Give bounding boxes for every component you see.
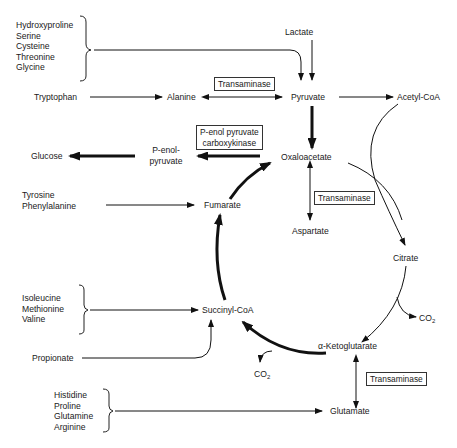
node-glucose: Glucose: [31, 151, 63, 162]
amino-acid-group-glutamate: Histidine Proline Glutamine Arginine: [54, 390, 93, 432]
penol-line2: pyruvate: [138, 156, 194, 167]
co2-text: CO: [419, 313, 432, 323]
label-tyrosine: Tyrosine: [22, 190, 76, 201]
co2-citrate: CO2: [419, 313, 435, 327]
node-succinyl-coa: Succinyl-CoA: [202, 305, 254, 316]
node-citrate: Citrate: [393, 253, 418, 264]
amino-acid-group-pyruvate: Hydroxyproline Serine Cysteine Threonine…: [16, 20, 73, 73]
brace-group1: [80, 16, 91, 81]
label-isoleucine: Isoleucine: [22, 293, 64, 304]
amino-acid-group-fumarate: Tyrosine Phenylalanine: [22, 190, 76, 211]
label-glycine: Glycine: [16, 62, 73, 73]
node-lactate: Lactate: [285, 27, 313, 38]
label-arginine: Arginine: [54, 422, 93, 433]
node-aspartate: Aspartate: [292, 226, 329, 237]
node-pyruvate: Pyruvate: [291, 92, 325, 103]
label-methionine: Methionine: [22, 304, 64, 315]
enzyme-transaminase-glutamate: Transaminase: [366, 372, 427, 386]
label-hydroxyproline: Hydroxyproline: [16, 20, 73, 31]
co2-text: CO: [254, 369, 267, 379]
pepck-line1: P-enol pyruvate: [200, 127, 259, 138]
node-tryptophan: Tryptophan: [34, 92, 77, 103]
label-serine: Serine: [16, 31, 73, 42]
label-histidine: Histidine: [54, 390, 93, 401]
node-propionate: Propionate: [32, 353, 74, 364]
label-valine: Valine: [22, 314, 64, 325]
pepck-line2: carboxykinase: [200, 138, 259, 149]
enzyme-transaminase-aspartate: Transaminase: [314, 191, 375, 205]
node-fumarate: Fumarate: [204, 200, 241, 211]
co2-ketoglutarate: CO2: [254, 369, 270, 383]
enzyme-transaminase-alanine: Transaminase: [214, 77, 275, 91]
node-alanine: Alanine: [167, 92, 196, 103]
co2-subscript: 2: [432, 318, 435, 324]
label-threonine: Threonine: [16, 52, 73, 63]
co2-subscript: 2: [267, 374, 270, 380]
penol-line1: P-enol-: [138, 145, 194, 156]
label-proline: Proline: [54, 401, 93, 412]
label-cysteine: Cysteine: [16, 41, 73, 52]
node-acetyl-coa: Acetyl-CoA: [397, 92, 440, 103]
node-p-enol-pyruvate: P-enol- pyruvate: [138, 145, 194, 166]
amino-acid-group-succinyl: Isoleucine Methionine Valine: [22, 293, 64, 325]
label-phenylalanine: Phenylalanine: [22, 201, 76, 212]
node-glutamate: Glutamate: [330, 406, 370, 417]
label-glutamine: Glutamine: [54, 411, 93, 422]
enzyme-pepck: P-enol pyruvate carboxykinase: [196, 125, 263, 150]
node-alpha-ketoglutarate: α-Ketoglutarate: [318, 341, 377, 352]
brace-glutamate: [103, 389, 113, 432]
node-oxaloacetate: Oxaloacetate: [281, 152, 332, 163]
brace-succinyl: [79, 285, 88, 334]
